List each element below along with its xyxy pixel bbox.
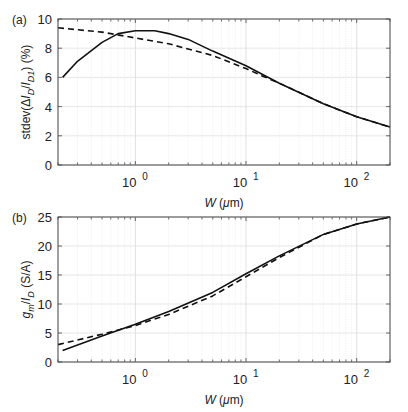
y-tick-label: 0 [45, 158, 52, 173]
y-tick-label: 5 [45, 326, 52, 341]
x-axis-label: W (μm) [204, 393, 243, 407]
svg-text:0: 0 [142, 368, 148, 379]
x-tick-label: 10 [233, 372, 247, 387]
y-tick-label: 4 [45, 100, 52, 115]
x-tick-label: 10 [343, 175, 357, 190]
svg-text:0: 0 [142, 171, 148, 182]
x-tick-label: 10 [122, 372, 136, 387]
figure: 0246810100101102(a)W (μm)stdev(ΔID/ID1) … [0, 0, 408, 412]
panel-label: (a) [12, 13, 27, 27]
y-tick-label: 2 [45, 129, 52, 144]
svg-text:1: 1 [253, 368, 259, 379]
panel-a: 0246810100101102(a)W (μm)stdev(ΔID/ID1) … [12, 12, 390, 210]
y-tick-label: 15 [38, 268, 52, 283]
y-tick-label: 25 [38, 210, 52, 225]
x-axis-label: W (μm) [204, 196, 243, 210]
y-tick-label: 8 [45, 41, 52, 56]
y-tick-label: 10 [38, 297, 52, 312]
series-solid [63, 217, 390, 350]
panel-label: (b) [12, 211, 27, 225]
y-tick-label: 10 [38, 12, 52, 27]
y-tick-label: 20 [38, 239, 52, 254]
y-axis-label: stdev(ΔID/ID1) (%) [19, 45, 36, 140]
x-tick-label: 10 [343, 372, 357, 387]
y-tick-label: 0 [45, 355, 52, 370]
svg-text:2: 2 [364, 368, 370, 379]
series-dashed [58, 217, 390, 345]
panel-b: 0510152025100101102(b)W (μm)gm/ID (S/A) [12, 210, 390, 407]
x-tick-label: 10 [122, 175, 136, 190]
svg-text:1: 1 [253, 171, 259, 182]
series-solid [63, 31, 390, 127]
grid [58, 19, 390, 165]
y-tick-label: 6 [45, 70, 52, 85]
y-axis-label: gm/ID (S/A) [19, 260, 36, 318]
svg-text:2: 2 [364, 171, 370, 182]
x-tick-label: 10 [233, 175, 247, 190]
axes-frame [58, 19, 390, 165]
